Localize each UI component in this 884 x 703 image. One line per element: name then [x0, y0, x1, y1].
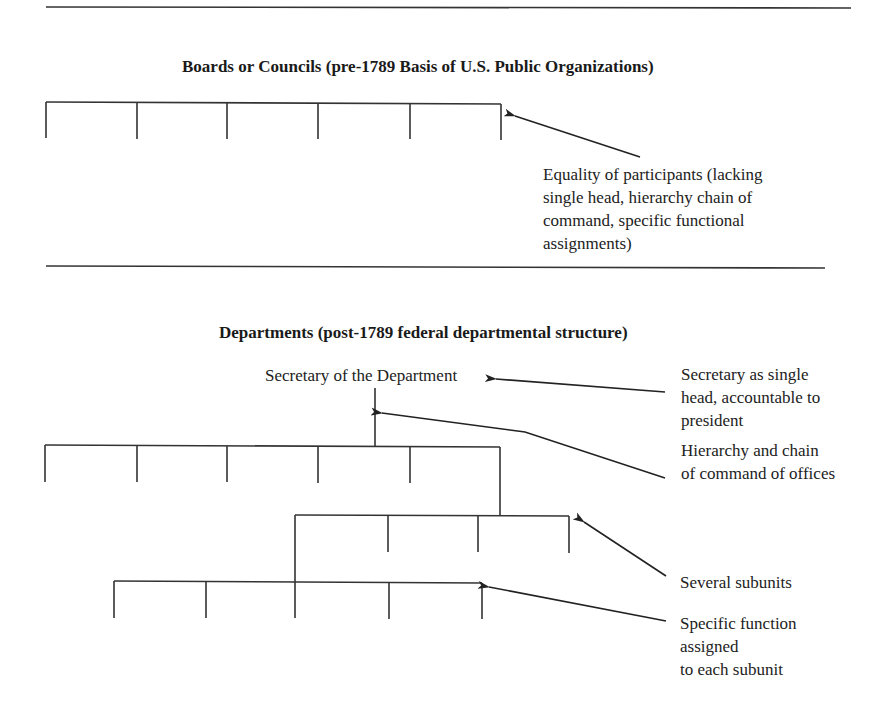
boards-flat-bar — [46, 102, 501, 140]
secretary-head-label: Secretary of the Department — [265, 364, 457, 387]
secretary-annotation: Secretary as single head, accountable to… — [681, 363, 820, 432]
hierarchy-annotation: Hierarchy and chain of command of office… — [681, 439, 835, 485]
org-structure-diagram — [0, 0, 884, 703]
middle-separator — [46, 266, 825, 268]
annotation-line: assignments) — [543, 232, 763, 255]
function-annotation: Specific function assigned to each subun… — [680, 612, 797, 681]
annotation-line: Secretary as single — [681, 363, 820, 386]
annotation-line: single head, hierarchy chain of — [543, 186, 763, 209]
subunits-arrow — [584, 522, 666, 576]
top-separator — [46, 7, 851, 8]
secretary-arrow — [496, 379, 665, 392]
hierarchy-arrow — [382, 413, 665, 478]
annotation-line: president — [681, 409, 820, 432]
annotation-line: Specific function — [680, 612, 797, 635]
function-arrow — [489, 587, 666, 621]
boards-title: Boards or Councils (pre-1789 Basis of U.… — [182, 57, 654, 77]
departments-title: Departments (post-1789 federal departmen… — [219, 323, 628, 343]
department-level-2-bar — [295, 515, 569, 582]
subunits-annotation: Several subunits — [680, 571, 792, 594]
annotation-line: Several subunits — [680, 571, 792, 594]
equality-arrow — [515, 116, 640, 157]
annotation-line: Equality of participants (lacking — [543, 163, 763, 186]
department-level-3-bar — [114, 581, 482, 619]
department-level-1-bar — [45, 445, 500, 515]
annotation-line: to each subunit — [680, 658, 797, 681]
annotation-line: assigned — [680, 635, 797, 658]
equality-annotation: Equality of participants (lacking single… — [543, 163, 763, 255]
annotation-line: Hierarchy and chain — [681, 439, 835, 462]
annotation-line: of command of offices — [681, 462, 835, 485]
annotation-line: head, accountable to — [681, 386, 820, 409]
annotation-line: command, specific functional — [543, 209, 763, 232]
